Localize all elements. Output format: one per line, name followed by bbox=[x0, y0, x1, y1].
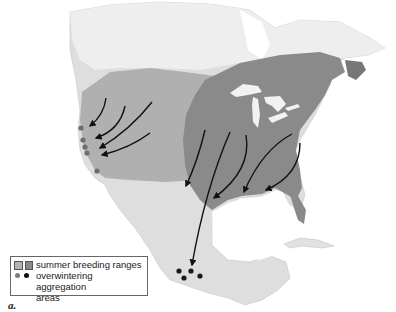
legend-swatch-western bbox=[14, 261, 23, 270]
legend-row-breeding: summer breeding ranges bbox=[14, 259, 144, 270]
legend-dot-western bbox=[15, 273, 20, 278]
legend-label-overwintering-cont: areas bbox=[14, 292, 144, 303]
legend-label-overwintering: overwintering aggregation bbox=[36, 270, 144, 292]
maritimes bbox=[345, 60, 366, 80]
legend-row-overwintering: overwintering aggregation bbox=[14, 270, 144, 292]
legend-label-breeding: summer breeding ranges bbox=[36, 259, 142, 270]
map-legend: summer breeding ranges overwintering agg… bbox=[10, 256, 148, 296]
legend-swatch-eastern bbox=[25, 261, 34, 270]
figure-label: a. bbox=[8, 299, 16, 311]
legend-dot-eastern bbox=[24, 273, 29, 278]
